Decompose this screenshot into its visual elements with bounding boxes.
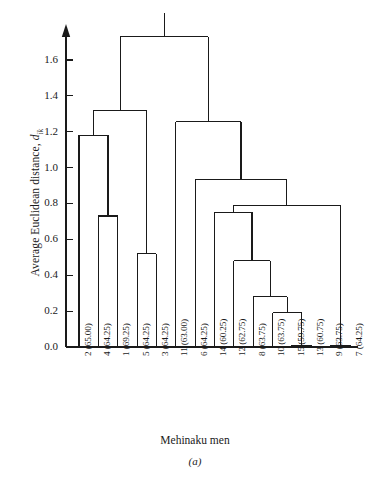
figure-caption: (a): [0, 455, 390, 467]
figure-caption-text: (a): [189, 455, 202, 467]
x-tick-label: 12 (62.75): [237, 319, 247, 356]
x-tick-label: 3 (64.25): [160, 323, 170, 356]
y-tick-label: 0.0: [28, 340, 58, 352]
x-tick-label: 6 (64.25): [199, 323, 209, 356]
x-tick-label: 14 (60.25): [218, 319, 228, 356]
x-tick-label: 4 (64.25): [102, 323, 112, 356]
x-tick-label: 15 (59.75): [296, 319, 306, 356]
x-tick-label: 9 (63.75): [334, 323, 344, 356]
dendrogram-plot: [0, 0, 390, 477]
y-tick-label: 1.0: [28, 161, 58, 173]
dendrogram-figure: Average Euclidean distance, dik 0.00.20.…: [0, 0, 390, 477]
x-tick-label: 2 (65.00): [83, 323, 93, 356]
x-tick-label: 11 (63.00): [179, 319, 189, 356]
x-tick-label: 5 (64.25): [141, 323, 151, 356]
x-tick-label: 8 (63.75): [257, 323, 267, 356]
x-tick-label: 1 (69.25): [121, 323, 131, 356]
x-tick-label: 7 (64.25): [354, 323, 364, 356]
x-tick-label: 13 (60.75): [315, 319, 325, 356]
y-tick-label: 0.2: [28, 304, 58, 316]
y-tick-label: 1.4: [28, 89, 58, 101]
x-tick-label: 10 (63.75): [276, 319, 286, 356]
y-tick-label: 0.8: [28, 196, 58, 208]
y-tick-label: 0.4: [28, 268, 58, 280]
y-tick-label: 1.6: [28, 53, 58, 65]
y-axis-arrow: [62, 24, 70, 37]
y-tick-label: 0.6: [28, 232, 58, 244]
y-tick-label: 1.2: [28, 125, 58, 137]
x-axis-title: Mehinaku men: [0, 434, 390, 446]
